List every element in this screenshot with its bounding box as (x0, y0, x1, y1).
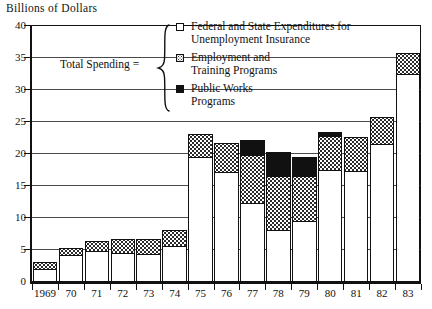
y-axis-tick (24, 25, 31, 26)
bar-segment-etp (266, 176, 290, 232)
x-axis-tick-label: 1969 (34, 288, 56, 299)
bar-82 (370, 117, 394, 281)
legend-equation-label: Total Spending = (60, 58, 139, 70)
x-axis-tick-label: 76 (221, 288, 232, 299)
chart-legend: Total Spending = Federal and State Expen… (60, 20, 360, 115)
white-open-square-swatch (176, 23, 184, 31)
bar-segment-etp (111, 239, 135, 254)
bar-78 (266, 152, 290, 281)
y-axis-tick (24, 121, 31, 122)
bar-segment-pw (266, 152, 290, 176)
bar-segment-ui (318, 170, 342, 282)
bar-segment-ui (396, 74, 420, 282)
bar-segment-ui (85, 251, 109, 282)
bar-75 (188, 134, 212, 281)
bar-segment-ui (344, 171, 368, 282)
chart-axis-title: Billions of Dollars (6, 2, 97, 14)
bar-segment-etp (344, 137, 368, 172)
y-axis-tick (24, 57, 31, 58)
legend-item-pw: Public Works Programs (176, 82, 253, 108)
x-axis-tick-label: 80 (325, 288, 336, 299)
bar-segment-etp (318, 136, 342, 171)
y-axis-tick (24, 217, 31, 218)
bar-segment-etp (396, 53, 420, 75)
bar-segment-ui (162, 246, 186, 282)
x-axis-tick-label: 77 (247, 288, 258, 299)
x-axis-tick-label: 70 (65, 288, 76, 299)
x-axis-tick-label: 83 (403, 288, 414, 299)
bar-77 (240, 140, 264, 281)
bar-segment-ui (266, 230, 290, 282)
x-axis-tick-label: 78 (273, 288, 284, 299)
bar-71 (85, 241, 109, 281)
bar-segment-ui (240, 203, 264, 282)
x-axis-tick-label: 82 (377, 288, 388, 299)
bar-segment-etp (162, 230, 186, 247)
bar-segment-ui (188, 157, 212, 282)
bar-segment-etp (370, 117, 394, 146)
dotted-square-swatch (176, 54, 184, 62)
x-axis-labels: 19697071727374757677787980818283 (0, 288, 432, 308)
legend-item-label: Employment and Training Programs (191, 51, 277, 77)
bar-segment-pw (292, 157, 316, 177)
y-axis-tick (24, 153, 31, 154)
brace-icon (156, 24, 172, 112)
x-axis-tick-label: 71 (91, 288, 102, 299)
legend-item-etp: Employment and Training Programs (176, 51, 277, 77)
bar-1969 (33, 262, 57, 281)
x-axis-tick-label: 79 (299, 288, 310, 299)
bar-72 (111, 239, 135, 281)
x-axis-tick-label: 73 (143, 288, 154, 299)
bar-segment-ui (292, 221, 316, 282)
x-axis-tick-label: 81 (351, 288, 362, 299)
legend-item-ui: Federal and State Expenditures for Unemp… (176, 20, 351, 46)
x-axis-tick-label: 75 (195, 288, 206, 299)
y-axis-tick-label: 0 (21, 276, 27, 287)
bar-70 (59, 248, 83, 281)
y-axis-tick (24, 89, 31, 90)
bar-segment-etp (240, 155, 264, 204)
bar-80 (318, 132, 342, 281)
chart-figure: Billions of Dollars 0510152025303540 196… (0, 0, 432, 309)
bar-segment-ui (370, 144, 394, 282)
y-axis-tick (24, 249, 31, 250)
bar-segment-ui (214, 172, 238, 282)
x-axis-tick-label: 72 (117, 288, 128, 299)
bar-segment-ui (59, 255, 83, 282)
legend-item-label: Public Works Programs (191, 82, 253, 108)
bar-83 (396, 53, 420, 281)
bar-74 (162, 230, 186, 281)
bar-segment-ui (111, 253, 135, 282)
bar-segment-etp (188, 134, 212, 158)
black-filled-square-swatch (176, 85, 184, 93)
bar-73 (136, 239, 160, 281)
y-axis-tick (24, 185, 31, 186)
bar-segment-etp (214, 143, 238, 172)
x-axis-tick-label: 74 (169, 288, 180, 299)
bar-segment-ui (136, 254, 160, 282)
bar-segment-pw (240, 140, 264, 156)
legend-item-label: Federal and State Expenditures for Unemp… (191, 20, 351, 46)
bar-segment-etp (136, 239, 160, 255)
bar-81 (344, 137, 368, 281)
bar-76 (214, 143, 238, 281)
bar-79 (292, 157, 316, 281)
bar-segment-etp (292, 176, 316, 222)
